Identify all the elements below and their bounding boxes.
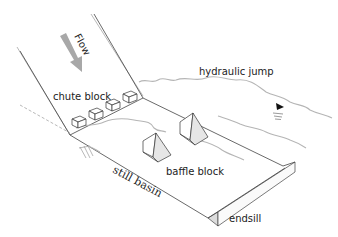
hydraulic-jump-surface	[139, 77, 332, 118]
water-level-line-3	[275, 119, 281, 120]
baffle-blocks	[143, 113, 208, 162]
basin-surface-right	[218, 116, 306, 148]
water-level-marker	[273, 103, 284, 120]
stilling-basin-diagram: Flow	[0, 0, 338, 237]
water-level-line-2	[274, 116, 282, 117]
water-level-line-1	[273, 113, 283, 114]
water-level-triangle-icon	[276, 103, 284, 110]
endsill-end-face	[208, 212, 218, 226]
endsill-label: endsill	[229, 213, 261, 224]
baffle-block-label: baffle block	[166, 166, 224, 177]
still-basin-label: still basin	[111, 163, 165, 200]
chute-block-label: chute block	[53, 91, 111, 102]
inflow-surface	[76, 119, 166, 132]
baffle-block	[143, 133, 171, 162]
chute-right-wall	[94, 14, 143, 98]
basin-surface-mid	[198, 140, 244, 160]
water-surface	[76, 77, 332, 160]
chute-block	[123, 91, 137, 103]
hydraulic-jump-label: hydraulic jump	[199, 66, 274, 77]
chute-block	[89, 108, 103, 120]
ground-line-dashed	[20, 105, 70, 133]
flow-arrow: Flow	[60, 32, 93, 72]
chute-right-wall-outer	[91, 14, 143, 96]
